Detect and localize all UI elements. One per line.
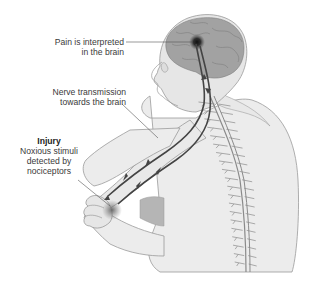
pain-pathway-diagram: Pain is interpreted in the brain Nerve t… xyxy=(0,0,309,289)
label-nerve-transmission: Nerve transmission towards the brain xyxy=(30,87,126,107)
label-line: in the brain xyxy=(40,47,124,57)
torso xyxy=(142,96,299,272)
label-line: detected by xyxy=(14,156,84,166)
label-pain-interpreted: Pain is interpreted in the brain xyxy=(40,37,124,57)
label-title: Injury xyxy=(14,136,84,146)
label-line: nociceptors xyxy=(14,166,84,176)
label-line: towards the brain xyxy=(30,97,126,107)
label-injury: Injury Noxious stimuli detected by nocic… xyxy=(14,136,84,176)
label-line: Noxious stimuli xyxy=(14,146,84,156)
arm-shadow xyxy=(140,197,164,226)
label-line: Pain is interpreted xyxy=(40,37,124,47)
label-line: Nerve transmission xyxy=(30,87,126,97)
